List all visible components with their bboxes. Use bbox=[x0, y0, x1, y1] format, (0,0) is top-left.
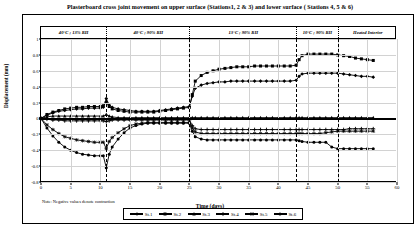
gridline-horizontal bbox=[41, 134, 396, 135]
legend-item[interactable]: St.2 bbox=[159, 212, 181, 217]
data-point-marker bbox=[164, 212, 167, 215]
data-point-marker bbox=[223, 128, 227, 132]
band-divider bbox=[296, 39, 297, 182]
data-point-marker bbox=[108, 153, 111, 156]
gridline-vertical bbox=[397, 39, 398, 182]
legend-item[interactable]: St.4 bbox=[216, 212, 238, 217]
data-point-marker bbox=[75, 106, 78, 109]
y-tick-label: 0 bbox=[36, 116, 38, 121]
data-point-marker bbox=[298, 58, 301, 61]
data-point-marker bbox=[223, 138, 226, 141]
data-point-marker bbox=[318, 141, 321, 144]
y-tick-label: 0.2 bbox=[33, 100, 39, 105]
data-point-marker bbox=[102, 154, 105, 157]
x-tick-label: 0 bbox=[40, 185, 42, 190]
data-point-marker bbox=[259, 79, 263, 83]
y-tick-label: -0.8 bbox=[31, 180, 38, 185]
data-point-marker bbox=[288, 128, 292, 132]
legend-marker-circle-icon bbox=[277, 210, 284, 217]
data-point-marker bbox=[289, 138, 292, 141]
y-tick-mark bbox=[39, 118, 42, 119]
condition-band-label: 10°C ; 90% RH bbox=[303, 30, 333, 35]
legend-marker-cross-icon bbox=[219, 210, 226, 217]
data-point-marker bbox=[229, 79, 233, 83]
data-point-marker bbox=[235, 79, 239, 83]
y-tick-label: 0.8 bbox=[33, 52, 39, 57]
data-point-marker bbox=[360, 129, 364, 133]
gridline-vertical bbox=[100, 39, 101, 182]
data-point-marker bbox=[342, 72, 346, 76]
data-point-marker bbox=[241, 138, 244, 141]
data-point-marker bbox=[300, 128, 304, 132]
data-point-marker bbox=[235, 138, 238, 141]
data-point-marker bbox=[93, 140, 97, 144]
y-tick-label: 1 bbox=[36, 37, 38, 42]
data-point-marker bbox=[229, 66, 232, 69]
data-point-marker bbox=[235, 65, 238, 68]
data-point-marker bbox=[152, 111, 155, 114]
data-point-marker bbox=[107, 140, 111, 144]
x-tick-label: 40 bbox=[276, 185, 281, 190]
legend-item[interactable]: St.6 bbox=[274, 212, 296, 217]
data-point-marker bbox=[330, 130, 334, 134]
gridline-vertical bbox=[130, 39, 131, 182]
data-point-marker bbox=[265, 128, 269, 132]
data-point-marker bbox=[253, 65, 256, 68]
band-divider bbox=[106, 39, 107, 182]
data-point-marker bbox=[182, 107, 185, 110]
data-point-marker bbox=[348, 129, 352, 133]
x-tick-label: 30 bbox=[217, 185, 222, 190]
series-st1 bbox=[39, 71, 375, 120]
data-point-marker bbox=[93, 154, 96, 157]
data-point-marker bbox=[194, 80, 197, 83]
y-tick-label: 0.6 bbox=[33, 68, 39, 73]
y-tick-mark bbox=[39, 39, 42, 40]
gridline-horizontal bbox=[41, 87, 396, 88]
y-axis-label: Displacement (mm) bbox=[3, 64, 9, 108]
legend-marker-square-icon bbox=[162, 210, 169, 217]
legend-line bbox=[159, 213, 172, 214]
y-tick-mark bbox=[39, 166, 42, 167]
data-point-marker bbox=[191, 130, 194, 133]
data-point-marker bbox=[200, 138, 203, 141]
data-point-marker bbox=[259, 128, 263, 132]
legend-item[interactable]: St.3 bbox=[188, 212, 210, 217]
data-point-marker bbox=[102, 104, 105, 107]
data-point-marker bbox=[140, 111, 143, 114]
data-point-marker bbox=[271, 138, 274, 141]
chart-note: Note: Negative values denote contraction bbox=[42, 199, 115, 204]
data-point-marker bbox=[318, 71, 322, 75]
data-point-marker bbox=[289, 65, 292, 68]
gridline-horizontal bbox=[41, 55, 396, 56]
y-tick-mark bbox=[39, 134, 42, 135]
data-point-marker bbox=[330, 146, 333, 149]
gridline-vertical bbox=[308, 39, 309, 182]
y-tick-label: 0.4 bbox=[33, 84, 39, 89]
data-point-marker bbox=[372, 59, 375, 62]
gridline-horizontal bbox=[41, 71, 396, 72]
legend-marker-triangle-icon bbox=[191, 210, 198, 217]
legend-item[interactable]: St.1 bbox=[130, 212, 152, 217]
gridline-vertical bbox=[160, 39, 161, 182]
condition-band-label: 40°C ; 90% RH bbox=[134, 30, 164, 35]
y-tick-label: -0.4 bbox=[31, 148, 38, 153]
legend-label: St.1 bbox=[145, 212, 153, 217]
gridline-vertical bbox=[278, 39, 279, 182]
zero-line bbox=[41, 118, 396, 119]
condition-band: Heated Interior bbox=[338, 27, 397, 38]
y-tick-label: -0.2 bbox=[31, 132, 38, 137]
data-point-marker bbox=[312, 128, 316, 132]
data-point-marker bbox=[229, 128, 233, 132]
condition-band-label: 13°C ; 90% RH bbox=[228, 30, 258, 35]
data-point-marker bbox=[324, 141, 327, 144]
legend-item[interactable]: St.5 bbox=[245, 212, 267, 217]
x-tick-label: 25 bbox=[187, 185, 192, 190]
data-point-marker bbox=[354, 129, 358, 133]
legend-label: St.3 bbox=[202, 212, 210, 217]
gridline-horizontal bbox=[41, 103, 396, 104]
data-point-marker bbox=[199, 128, 203, 132]
data-point-marker bbox=[134, 124, 137, 127]
data-point-marker bbox=[192, 212, 195, 215]
data-point-marker bbox=[87, 140, 91, 144]
data-point-marker bbox=[122, 127, 126, 131]
